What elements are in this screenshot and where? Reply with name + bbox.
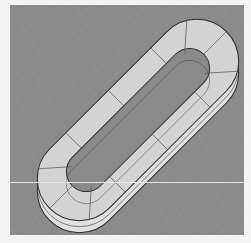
- ring-model-render: [10, 5, 244, 235]
- 3d-viewport[interactable]: 3D viewport oval ring: [10, 5, 244, 235]
- guide-line: [10, 182, 244, 183]
